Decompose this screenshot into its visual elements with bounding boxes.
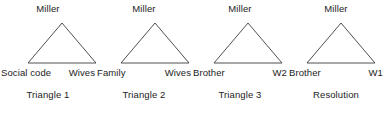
base-left-label: Family xyxy=(97,66,126,79)
triangle-panel-3: Miller Brother W2 Triangle 3 xyxy=(192,0,288,113)
base-labels: Brother W1 xyxy=(288,66,384,79)
base-left-label: Brother xyxy=(289,66,321,79)
base-right-label: Wives xyxy=(69,66,95,79)
base-labels: Social code Wives xyxy=(0,66,96,79)
base-right-label: W2 xyxy=(273,66,287,79)
triangle-panel-1: Miller Social code Wives Triangle 1 xyxy=(0,0,96,113)
apex-label: Miller xyxy=(96,3,192,15)
triangle-panel-4: Miller Brother W1 Resolution xyxy=(288,0,384,113)
base-right-label: Wives xyxy=(165,66,191,79)
triangle-shape xyxy=(288,20,384,66)
base-left-label: Brother xyxy=(193,66,225,79)
base-labels: Brother W2 xyxy=(192,66,288,79)
apex-label: Miller xyxy=(0,3,96,15)
panel-caption: Triangle 2 xyxy=(96,88,192,101)
apex-label: Miller xyxy=(192,3,288,15)
apex-label: Miller xyxy=(288,3,384,15)
base-right-label: W1 xyxy=(369,66,383,79)
base-left-label: Social code xyxy=(1,66,51,79)
panel-caption: Resolution xyxy=(288,88,384,101)
panel-caption: Triangle 3 xyxy=(192,88,288,101)
triangle-shape xyxy=(192,20,288,66)
triangle-shape xyxy=(96,20,192,66)
base-labels: Family Wives xyxy=(96,66,192,79)
panel-caption: Triangle 1 xyxy=(0,88,96,101)
triangle-shape xyxy=(0,20,96,66)
triangle-panel-2: Miller Family Wives Triangle 2 xyxy=(96,0,192,113)
triangles-figure: Miller Social code Wives Triangle 1 Mill… xyxy=(0,0,384,113)
